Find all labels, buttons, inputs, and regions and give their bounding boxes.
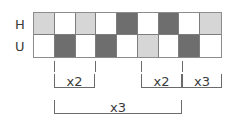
grid-cell-u-9 bbox=[200, 35, 221, 57]
grid-cell-h-7 bbox=[159, 13, 180, 35]
tick-2 bbox=[95, 61, 96, 72]
grid-cell-h-4 bbox=[96, 13, 117, 35]
grid-cell-u-3 bbox=[76, 35, 97, 57]
grid-cell-u-7 bbox=[159, 35, 180, 57]
grid-cell-u-8 bbox=[179, 35, 200, 57]
grid-cell-h-6 bbox=[138, 13, 159, 35]
grid-cell-h-3 bbox=[76, 13, 97, 35]
row-label-u: U bbox=[15, 40, 25, 53]
cell-grid bbox=[33, 12, 222, 58]
grid-cell-h-9 bbox=[200, 13, 221, 35]
bracket-x2-left-label: x2 bbox=[54, 75, 95, 88]
tick-1 bbox=[54, 61, 55, 72]
grid-cell-u-6 bbox=[138, 35, 159, 57]
figure-canvas: H U x2x2x3x3 bbox=[0, 0, 231, 127]
bracket-x3-span-label: x3 bbox=[54, 101, 182, 114]
grid-cell-h-1 bbox=[34, 13, 55, 35]
bracket-x2-right-label: x2 bbox=[141, 75, 182, 88]
bracket-x3-right-label: x3 bbox=[182, 75, 222, 88]
row-label-h: H bbox=[15, 18, 25, 31]
grid-cell-h-2 bbox=[55, 13, 76, 35]
grid-cell-u-2 bbox=[55, 35, 76, 57]
grid-cell-u-4 bbox=[96, 35, 117, 57]
grid-cell-h-8 bbox=[179, 13, 200, 35]
tick-3 bbox=[141, 61, 142, 72]
grid-cell-h-5 bbox=[117, 13, 138, 35]
tick-4 bbox=[182, 61, 183, 72]
grid-cell-u-1 bbox=[34, 35, 55, 57]
grid-cell-u-5 bbox=[117, 35, 138, 57]
